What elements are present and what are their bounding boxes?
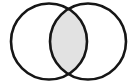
venn-diagram-figure [0,0,137,84]
venn-diagram-canvas [0,0,137,84]
